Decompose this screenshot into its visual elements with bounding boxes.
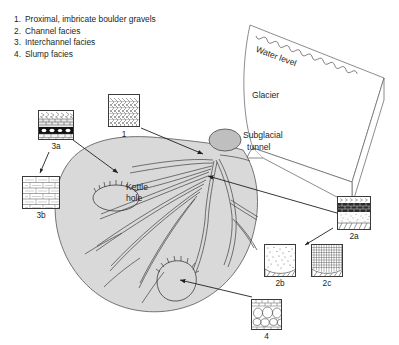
facies-box-2b [264, 244, 296, 277]
diagram-canvas: 1. Proximal, imbricate boulder gravels 2… [0, 0, 399, 345]
facies-box-1-caption: 1 [108, 129, 140, 139]
facies-box-2c-caption: 2c [311, 278, 343, 288]
glacier-label: Glacier [252, 90, 279, 100]
subglacial-tunnel-label-line2: tunnel [247, 142, 270, 152]
arrow-2a-to-2b [305, 228, 333, 245]
facies-box-3a [38, 110, 74, 140]
facies-box-2a [337, 196, 371, 230]
kettle-hole-label-line1: Kettle [126, 182, 148, 192]
facies-box-2b-caption: 2b [264, 278, 296, 288]
subglacial-tunnel-ellipse [209, 129, 241, 151]
subglacial-tunnel-label-line1: Subglacial [243, 130, 283, 140]
diagram-artwork [0, 0, 399, 345]
facies-box-3b-caption: 3b [22, 210, 60, 220]
facies-box-2a-caption: 2a [337, 231, 371, 241]
facies-box-3a-caption: 3a [38, 141, 74, 151]
facies-box-4 [251, 299, 282, 330]
facies-box-4-caption: 4 [251, 331, 282, 341]
facies-box-3b [22, 176, 60, 209]
facies-box-2c [311, 244, 343, 277]
arrow-3a-to-3b [40, 152, 49, 173]
kettle-hole-label-line2: hole [126, 193, 142, 203]
facies-box-1 [108, 94, 140, 127]
